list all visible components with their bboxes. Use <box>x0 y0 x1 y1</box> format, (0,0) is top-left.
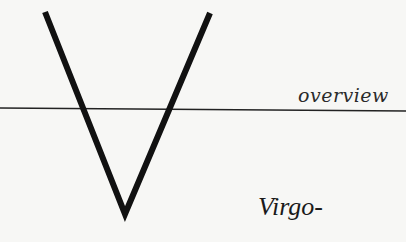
virgo-label: Virgo- <box>258 192 323 222</box>
overview-label: overview <box>298 84 389 106</box>
v-glyph-icon <box>45 12 210 214</box>
virgo-glyph-figure <box>0 0 406 242</box>
horizontal-rule <box>0 108 406 111</box>
